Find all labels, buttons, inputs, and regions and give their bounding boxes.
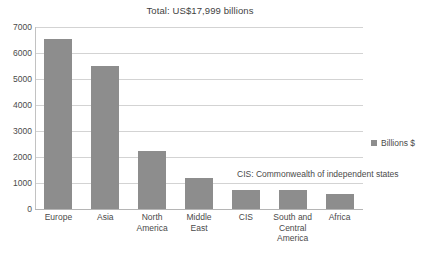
bar-slot <box>176 27 223 209</box>
legend-swatch-icon <box>371 140 377 146</box>
y-axis-tick-label: 6000 <box>2 48 32 58</box>
bar[interactable] <box>138 151 166 210</box>
chart-annotation: CIS: Commonwealth of independent states <box>237 169 399 179</box>
bar[interactable] <box>185 178 213 209</box>
bar-slot <box>269 27 316 209</box>
chart-legend: Billions $ <box>371 138 415 148</box>
y-axis-tick-label: 1000 <box>2 178 32 188</box>
y-axis-tick-label: 3000 <box>2 126 32 136</box>
x-axis-tick-label-line: Africa <box>312 212 368 223</box>
legend-label: Billions $ <box>381 138 415 148</box>
bar-slot <box>129 27 176 209</box>
bar[interactable] <box>326 194 354 209</box>
plot-area <box>35 27 363 209</box>
bar-slot <box>82 27 129 209</box>
bar[interactable] <box>91 66 119 209</box>
y-axis-tick-label: 5000 <box>2 74 32 84</box>
x-axis-tick-label-line: East <box>171 223 227 234</box>
y-axis-tick-label: 4000 <box>2 100 32 110</box>
bar-slot <box>35 27 82 209</box>
y-axis-tick-label: 2000 <box>2 152 32 162</box>
bar-series <box>35 27 363 209</box>
y-axis-tick-label: 7000 <box>2 22 32 32</box>
y-axis-tick-label: 0 <box>2 204 32 214</box>
bar-slot <box>316 27 363 209</box>
bar[interactable] <box>44 39 72 209</box>
chart-title: Total: US$17,999 billions <box>0 5 400 16</box>
bar-chart: Total: US$17,999 billions 70006000500040… <box>0 0 433 257</box>
bar[interactable] <box>232 190 260 210</box>
bar-slot <box>222 27 269 209</box>
x-axis-tick-label-line: Central <box>265 223 321 234</box>
gridline <box>35 209 363 210</box>
y-axis-tick-labels: 70006000500040003000200010000 <box>0 27 32 209</box>
x-axis-tick-labels: EuropeAsiaNorthAmericaMiddleEastCISSouth… <box>35 212 363 256</box>
x-axis-tick-label-line: America <box>265 233 321 244</box>
x-axis-tick-label: Africa <box>312 212 368 223</box>
bar[interactable] <box>279 190 307 209</box>
